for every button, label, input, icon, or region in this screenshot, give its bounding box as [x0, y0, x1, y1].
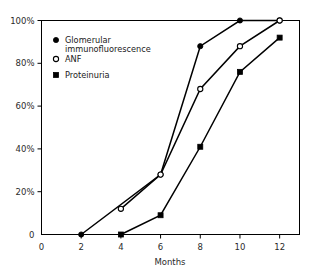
legend-label: Proteinuria: [65, 70, 110, 80]
x-tick-label: 0: [39, 242, 44, 252]
y-tick-label: 100%: [10, 16, 34, 26]
legend-label-continued: immunofluorescence: [65, 44, 151, 54]
x-tick-label: 10: [235, 242, 246, 252]
x-tick-label: 2: [78, 242, 83, 252]
legend-marker-open-circle: [53, 56, 58, 61]
data-point-open-circle: [158, 172, 163, 177]
series-line-filled-square: [121, 38, 280, 235]
y-tick-label: 40%: [16, 144, 35, 154]
data-point-open-circle: [237, 44, 242, 49]
data-point-filled-square: [158, 213, 163, 218]
data-point-filled-square: [277, 35, 282, 40]
y-tick-label: 20%: [16, 187, 35, 197]
data-point-filled-circle: [237, 18, 242, 23]
legend-label: ANF: [65, 54, 82, 64]
y-tick-label: 80%: [16, 58, 35, 68]
data-point-filled-circle: [79, 232, 84, 237]
data-point-filled-circle: [198, 44, 203, 49]
data-point-open-circle: [118, 206, 123, 211]
data-point-filled-square: [198, 144, 203, 149]
data-point-open-circle: [277, 18, 282, 23]
legend-marker-filled-circle: [53, 37, 58, 42]
legend-marker-filled-square: [54, 73, 59, 78]
y-tick-label: 0: [29, 230, 34, 240]
chart-legend: GlomerularimmunofluorescenceANFProteinur…: [53, 35, 150, 80]
x-tick-label: 6: [158, 242, 163, 252]
chart-figure: 020%40%60%80%100% 024681012 Months Glome…: [0, 0, 313, 276]
x-tick-label: 4: [118, 242, 123, 252]
line-chart: 020%40%60%80%100% 024681012 Months Glome…: [0, 0, 313, 276]
x-tick-label: 8: [198, 242, 203, 252]
data-point-filled-square: [237, 69, 242, 74]
y-axis-ticks: 020%40%60%80%100%: [10, 16, 41, 240]
data-point-filled-square: [118, 232, 123, 237]
x-tick-label: 12: [274, 242, 285, 252]
x-axis-ticks: 024681012: [39, 235, 285, 252]
y-tick-label: 60%: [16, 101, 35, 111]
data-point-open-circle: [198, 86, 203, 91]
x-axis-title: Months: [154, 257, 186, 267]
